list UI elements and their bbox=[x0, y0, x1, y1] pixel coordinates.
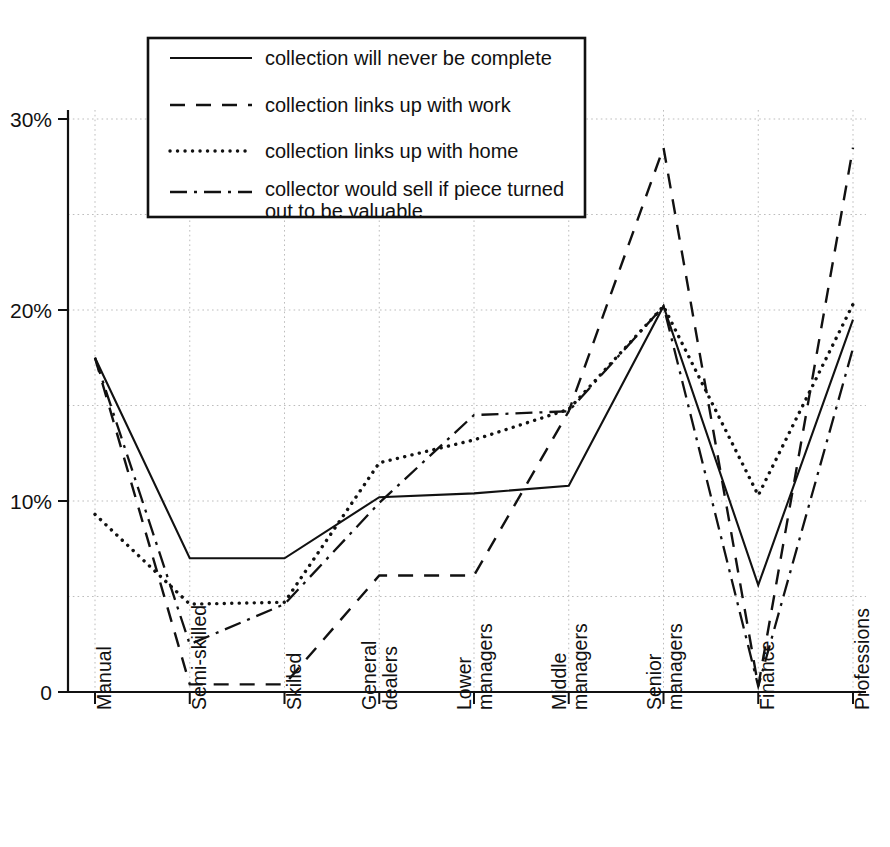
chart-svg: 010%20%30% ManualSemi-skilledSkilledGene… bbox=[0, 0, 890, 847]
x-tick-label-1: Semi-skilled bbox=[188, 605, 210, 710]
x-tick-label-line: Skilled bbox=[283, 653, 305, 710]
y-tick-label-20: 20% bbox=[10, 299, 52, 322]
y-axis-tick-labels: 010%20%30% bbox=[10, 108, 52, 704]
x-tick-label-line: Senior bbox=[643, 653, 665, 710]
x-tick-label-line: Middle bbox=[548, 653, 570, 710]
y-tick-label-0: 0 bbox=[40, 681, 52, 704]
legend-label-4: out to be valuable bbox=[265, 200, 423, 222]
x-tick-label-line: managers bbox=[569, 623, 591, 710]
x-tick-label-line: General bbox=[358, 641, 380, 710]
legend-label-1: collection links up with work bbox=[265, 94, 512, 116]
x-tick-label-5: Middlemanagers bbox=[548, 623, 591, 710]
legend-label-3: collector would sell if piece turned bbox=[265, 178, 564, 200]
x-tick-label-line: managers bbox=[474, 623, 496, 710]
line-chart: 010%20%30% ManualSemi-skilledSkilledGene… bbox=[0, 0, 890, 847]
x-tick-label-line: Professions bbox=[851, 608, 873, 710]
x-tick-label-3: Generaldealers bbox=[358, 641, 401, 710]
x-tick-label-line: Lower bbox=[453, 656, 475, 710]
y-axis-ticks bbox=[58, 119, 68, 692]
y-tick-label-30: 30% bbox=[10, 108, 52, 131]
x-tick-label-8: Professions bbox=[851, 608, 873, 710]
x-tick-label-line: managers bbox=[664, 623, 686, 710]
x-tick-label-2: Skilled bbox=[283, 653, 305, 710]
x-tick-label-line: Semi-skilled bbox=[188, 605, 210, 710]
x-tick-label-line: Manual bbox=[93, 646, 115, 710]
x-tick-label-0: Manual bbox=[93, 646, 115, 710]
legend-label-0: collection will never be complete bbox=[265, 47, 552, 69]
x-axis-tick-labels: ManualSemi-skilledSkilledGeneraldealersL… bbox=[93, 605, 873, 710]
x-tick-label-6: Seniormanagers bbox=[643, 623, 686, 710]
chart-legend: collection will never be complete collec… bbox=[148, 38, 585, 222]
x-tick-label-line: dealers bbox=[379, 646, 401, 710]
y-tick-label-10: 10% bbox=[10, 490, 52, 513]
legend-label-2: collection links up with home bbox=[265, 140, 518, 162]
x-tick-label-4: Lowermanagers bbox=[453, 623, 496, 710]
